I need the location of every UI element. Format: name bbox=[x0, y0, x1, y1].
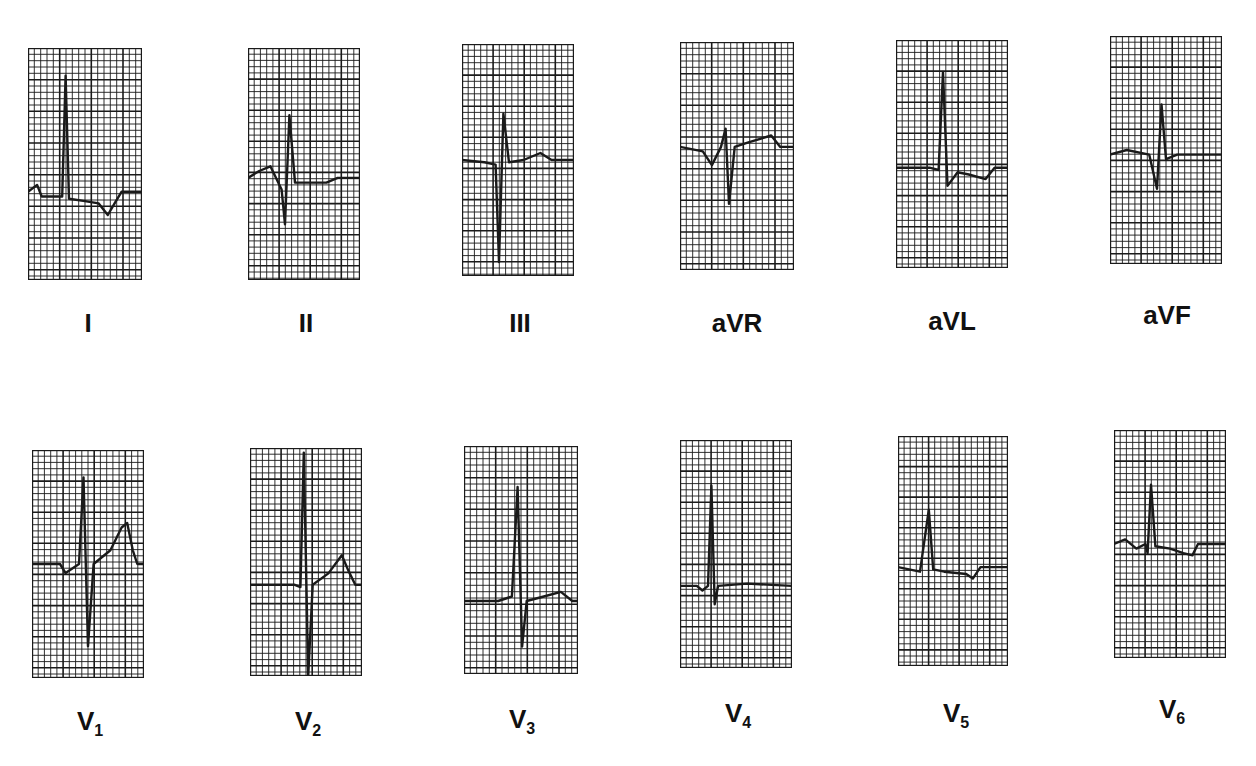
ecg-grid bbox=[680, 42, 794, 270]
ecg-lead-i bbox=[28, 48, 142, 280]
ecg-grid bbox=[680, 440, 792, 668]
lead-label: V5 bbox=[896, 698, 1016, 732]
lead-label: aVL bbox=[892, 306, 1012, 337]
ecg-grid bbox=[1114, 430, 1226, 658]
ecg-lead-v6 bbox=[1114, 430, 1226, 658]
ecg-lead-ii bbox=[248, 48, 360, 280]
lead-label: V1 bbox=[30, 706, 150, 740]
ecg-lead-v2 bbox=[250, 448, 362, 676]
ecg-grid bbox=[462, 44, 574, 276]
lead-label: aVR bbox=[677, 308, 797, 339]
lead-label: V4 bbox=[678, 698, 798, 732]
ecg-lead-avr bbox=[680, 42, 794, 270]
ecg-grid bbox=[250, 448, 362, 676]
ecg-lead-iii bbox=[462, 44, 574, 276]
ecg-grid bbox=[28, 48, 142, 280]
lead-label: V6 bbox=[1112, 694, 1232, 728]
lead-label: III bbox=[460, 308, 580, 339]
lead-label: I bbox=[28, 308, 148, 339]
lead-label: II bbox=[246, 308, 366, 339]
ecg-lead-avl bbox=[896, 40, 1008, 268]
ecg-grid bbox=[1110, 36, 1222, 264]
ecg-lead-v1 bbox=[32, 450, 144, 678]
ecg-grid bbox=[32, 450, 144, 678]
ecg-grid bbox=[896, 40, 1008, 268]
ecg-grid bbox=[464, 446, 578, 674]
ecg-lead-v4 bbox=[680, 440, 792, 668]
ecg-lead-v3 bbox=[464, 446, 578, 674]
lead-label: V3 bbox=[462, 704, 582, 738]
ecg-lead-v5 bbox=[898, 436, 1008, 666]
ecg-grid bbox=[898, 436, 1008, 666]
ecg-lead-avf bbox=[1110, 36, 1222, 264]
ecg-grid bbox=[248, 48, 360, 280]
lead-label: V2 bbox=[248, 706, 368, 740]
lead-label: aVF bbox=[1107, 300, 1227, 331]
